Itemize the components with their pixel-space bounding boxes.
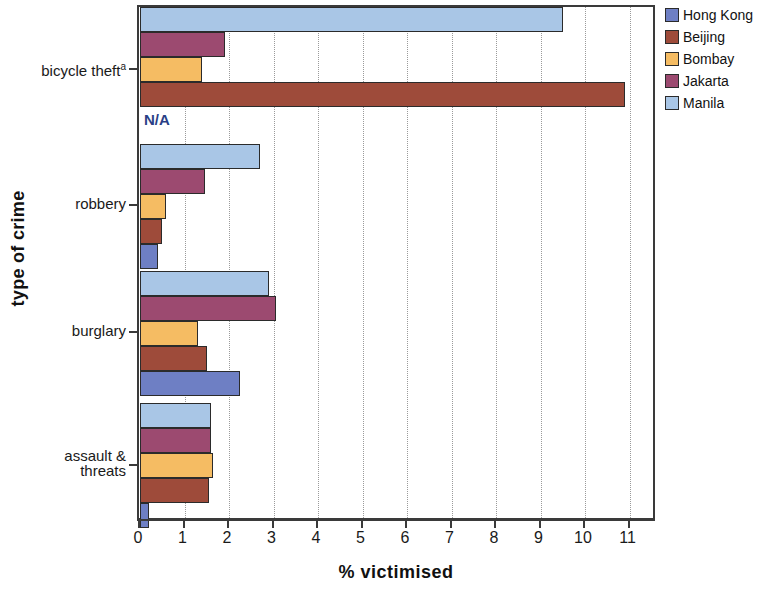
x-axis-tick: [628, 520, 630, 528]
legend-swatch-icon: [665, 30, 679, 44]
x-axis-tick-label: 7: [445, 529, 454, 547]
x-axis-line: [137, 519, 655, 521]
bar: [140, 144, 260, 169]
x-axis-tick-label: 3: [267, 529, 276, 547]
legend-swatch-icon: [665, 52, 679, 66]
bar: [140, 219, 162, 244]
bar: [140, 194, 166, 219]
legend-label: Manila: [683, 96, 724, 110]
x-axis-tick-label: 11: [619, 529, 636, 547]
legend-label: Bombay: [683, 52, 734, 66]
bar: [140, 296, 276, 321]
x-axis-tick-label: 4: [312, 529, 321, 547]
x-axis-tick-label: 6: [401, 529, 410, 547]
legend-item: Manila: [665, 92, 757, 113]
x-axis-tick: [272, 520, 274, 528]
footnote-marker: a: [120, 61, 126, 72]
bar: [140, 32, 225, 57]
legend-swatch-icon: [665, 8, 679, 22]
y-axis-category-label: bicycle thefta: [41, 59, 126, 78]
plot-area: N/A: [137, 5, 655, 520]
legend-label: Beijing: [683, 30, 725, 44]
legend-item: Beijing: [665, 26, 757, 47]
y-axis-tick: [129, 204, 138, 206]
bar: [140, 371, 240, 396]
x-axis-tick: [405, 520, 407, 528]
x-axis-tick: [183, 520, 185, 528]
x-axis-tick: [494, 520, 496, 528]
x-axis-tick: [316, 520, 318, 528]
x-axis-tick-label: 5: [356, 529, 365, 547]
bar: [140, 57, 202, 82]
y-axis-tick: [129, 331, 138, 333]
bar: [140, 428, 211, 453]
x-axis-tick-label: 0: [134, 529, 143, 547]
na-annotation: N/A: [144, 112, 170, 127]
bar: [140, 321, 198, 346]
x-axis-title: % victimised: [137, 562, 655, 583]
bar: [140, 503, 149, 528]
x-axis-tick-label: 2: [223, 529, 232, 547]
x-axis-tick: [539, 520, 541, 528]
bar: [140, 271, 269, 296]
y-axis-category-label: robbery: [75, 196, 126, 211]
bar: [140, 453, 213, 478]
y-axis-title: type of crime: [8, 169, 29, 329]
y-axis-category-label: assault &threats: [64, 448, 126, 478]
y-axis-tick: [129, 464, 138, 466]
gridline: [630, 7, 631, 518]
legend-label: Jakarta: [683, 74, 729, 88]
bar: [140, 346, 207, 371]
bar: [140, 7, 563, 32]
bar: [140, 403, 211, 428]
y-axis-tick: [129, 68, 138, 70]
x-axis-tick: [450, 520, 452, 528]
legend-swatch-icon: [665, 74, 679, 88]
y-axis-category-label: burglary: [72, 323, 126, 338]
legend: Hong KongBeijingBombayJakartaManila: [665, 4, 757, 114]
x-axis-tick-label: 1: [178, 529, 187, 547]
x-axis-tick: [138, 520, 140, 528]
bar: [140, 169, 205, 194]
x-axis-tick-label: 9: [534, 529, 543, 547]
x-axis-tick-label: 10: [574, 529, 592, 547]
plot-inner: N/A: [139, 7, 653, 518]
bar-chart: N/A 01234567891011 % victimised bicycle …: [0, 0, 758, 591]
legend-swatch-icon: [665, 96, 679, 110]
legend-label: Hong Kong: [683, 8, 753, 22]
x-axis-tick: [227, 520, 229, 528]
bar: [140, 244, 158, 269]
legend-item: Hong Kong: [665, 4, 757, 25]
legend-item: Bombay: [665, 48, 757, 69]
x-axis-tick-label: 8: [490, 529, 499, 547]
legend-item: Jakarta: [665, 70, 757, 91]
x-axis-tick: [361, 520, 363, 528]
bar: [140, 82, 625, 107]
bar: [140, 478, 209, 503]
x-axis-tick: [583, 520, 585, 528]
